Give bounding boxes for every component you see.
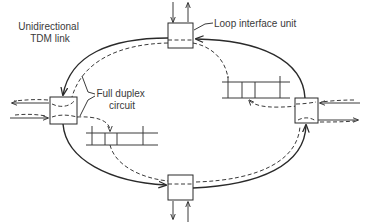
full-duplex-circuit-label: Full duplex circuit (96, 88, 147, 111)
tdm-frame-lower (77, 117, 158, 145)
callout-full-duplex (80, 76, 95, 116)
loop-interface-unit-left (10, 97, 77, 124)
full-duplex-circuit-path (72, 43, 300, 182)
loop-interface-unit-bottom (168, 175, 193, 222)
tdm-frame-upper (222, 76, 298, 107)
tdm-loop-link (63, 38, 306, 188)
callout-loop-interface-unit (194, 23, 213, 30)
loop-interface-unit-label: Loop interface unit (214, 18, 297, 29)
tdm-loop-diagram: Unidirectional TDM link Loop interface u… (0, 0, 369, 224)
loop-interface-unit-top (168, 2, 193, 48)
tdm-link-label: Unidirectional TDM link (18, 21, 81, 44)
loop-interface-unit-right (295, 98, 360, 123)
